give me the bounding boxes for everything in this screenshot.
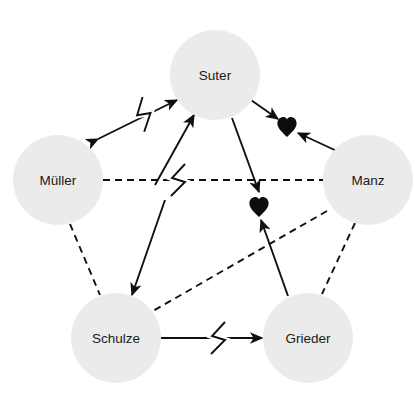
sociogram-diagram: SuterMüllerManzSchulzeGrieder (0, 0, 415, 395)
node-label-suter: Suter (199, 68, 232, 83)
heart-shape (277, 117, 296, 137)
nodes-layer: SuterMüllerManzSchulzeGrieder (13, 30, 413, 383)
node-schulze[interactable]: Schulze (71, 293, 161, 383)
heart-symbol (249, 197, 268, 217)
edge-mueller-schulze (70, 224, 100, 295)
edge-manz-heart1 (298, 133, 339, 152)
heart-shape (249, 197, 268, 217)
edge-suter-schulze (132, 200, 165, 295)
conflict-bolt-icon (211, 322, 225, 354)
node-grieder[interactable]: Grieder (263, 293, 353, 383)
edge-manz-grieder (322, 223, 355, 294)
conflict-bolt-icon (171, 164, 185, 196)
node-mueller[interactable]: Müller (13, 135, 103, 225)
heart-symbol (277, 117, 296, 137)
node-label-grieder: Grieder (285, 331, 331, 346)
node-manz[interactable]: Manz (323, 135, 413, 225)
node-suter[interactable]: Suter (170, 30, 260, 120)
symbols-layer (249, 117, 296, 217)
conflict-bolt-icon (130, 97, 157, 132)
node-label-manz: Manz (351, 173, 384, 188)
node-label-mueller: Müller (40, 173, 77, 188)
node-label-schulze: Schulze (92, 331, 140, 346)
edge-suter-heart1 (251, 100, 278, 119)
edge-grieder-heart2 (261, 220, 288, 296)
sociogram-canvas: SuterMüllerManzSchulzeGrieder (0, 0, 415, 395)
